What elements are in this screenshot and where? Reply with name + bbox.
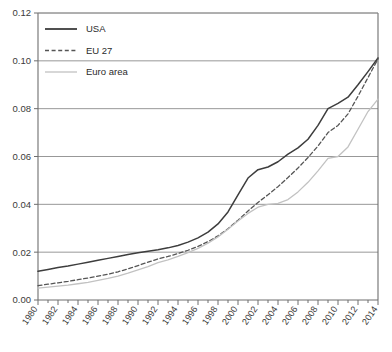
series-line-eu-27 xyxy=(38,59,378,286)
legend-label-usa: USA xyxy=(86,23,106,34)
y-tick-label: 0.08 xyxy=(13,103,32,114)
x-axis-ticks xyxy=(38,300,378,305)
series-line-usa xyxy=(38,58,378,271)
x-tick-label: 1996 xyxy=(180,304,200,326)
x-tick-label: 1994 xyxy=(160,304,180,326)
y-tick-label: 0.12 xyxy=(13,7,32,18)
x-tick-label: 2012 xyxy=(340,304,360,326)
x-tick-label: 1982 xyxy=(40,304,60,326)
x-tick-label: 2002 xyxy=(240,304,260,326)
y-tick-label: 0.06 xyxy=(13,151,32,162)
x-tick-label: 1984 xyxy=(60,304,80,326)
data-series-group xyxy=(38,58,378,288)
legend-label-euro-area: Euro area xyxy=(86,66,128,77)
y-tick-label: 0.02 xyxy=(13,247,32,258)
chart-canvas: 0.000.020.040.060.080.100.12 19801982198… xyxy=(0,0,392,352)
y-tick-label: 0.04 xyxy=(13,199,32,210)
x-tick-label: 2010 xyxy=(320,304,340,326)
x-tick-label: 2014 xyxy=(360,304,380,326)
y-axis-tick-labels: 0.000.020.040.060.080.100.12 xyxy=(13,7,32,305)
x-axis-tick-labels: 1980198219841986198819901992199419961998… xyxy=(20,304,380,326)
y-tick-label: 0.00 xyxy=(13,294,32,305)
x-tick-label: 1998 xyxy=(200,304,220,326)
legend-label-eu-27: EU 27 xyxy=(86,45,112,56)
x-tick-label: 1980 xyxy=(20,304,40,326)
x-tick-label: 2000 xyxy=(220,304,240,326)
x-tick-label: 2006 xyxy=(280,304,300,326)
y-tick-label: 0.10 xyxy=(13,55,32,66)
chart-legend: USAEU 27Euro area xyxy=(45,23,128,77)
x-tick-label: 2004 xyxy=(260,304,280,326)
x-tick-label: 2008 xyxy=(300,304,320,326)
x-tick-label: 1990 xyxy=(120,304,140,326)
x-tick-label: 1988 xyxy=(100,304,120,326)
series-line-euro-area xyxy=(38,99,378,288)
line-chart: 0.000.020.040.060.080.100.12 19801982198… xyxy=(0,0,392,352)
x-tick-label: 1986 xyxy=(80,304,100,326)
y-axis-ticks xyxy=(34,13,38,300)
x-tick-label: 1992 xyxy=(140,304,160,326)
